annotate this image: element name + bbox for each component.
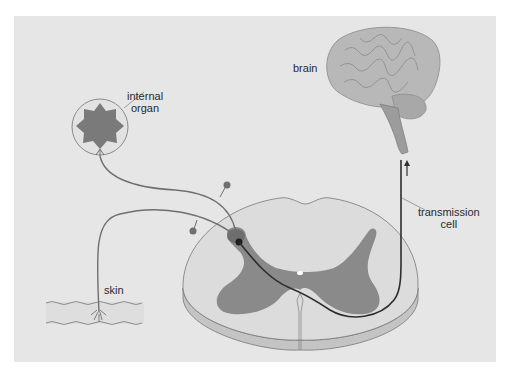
brain-label: brain bbox=[293, 62, 317, 74]
spinal-cord bbox=[183, 198, 418, 350]
internal-organ-label: internal organ bbox=[127, 90, 163, 114]
skin-label: skin bbox=[104, 284, 124, 296]
transmission-cell-label: transmission cell bbox=[418, 206, 480, 230]
label-line: internal bbox=[127, 90, 163, 102]
label-line: cell bbox=[418, 218, 480, 230]
label-line: transmission bbox=[418, 206, 480, 218]
pain-pathway-diagram bbox=[0, 0, 512, 377]
skin-layer bbox=[46, 302, 144, 325]
brain-illustration bbox=[327, 27, 440, 154]
label-line: organ bbox=[127, 102, 163, 114]
